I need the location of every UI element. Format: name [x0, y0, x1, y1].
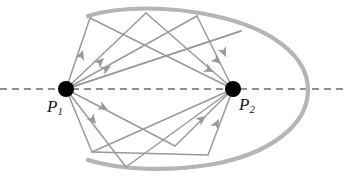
arrowhead-to-p2-3 — [218, 46, 230, 59]
ray-C-to-p2 — [197, 16, 233, 89]
ellipse-boundary-arc-lower — [88, 90, 308, 169]
focus-label-p1-subscript: 1 — [57, 105, 63, 117]
arrowhead-down-1 — [97, 101, 110, 114]
ray-G-to-p2 — [92, 89, 233, 152]
focus-label-p1-symbol: P — [47, 97, 57, 116]
ray-A-to-p2 — [90, 18, 233, 89]
focus-label-p2-subscript: 2 — [249, 103, 255, 115]
trajectory-rays-group — [66, 13, 241, 167]
ray-p1-to-F — [66, 89, 126, 167]
figure-canvas — [0, 0, 345, 181]
ray-p1-to-H — [66, 89, 175, 146]
ray-p1-to-G — [66, 89, 92, 152]
billiard-figure: P1 P2 — [0, 0, 345, 181]
focus-label-p1: P1 — [47, 98, 63, 115]
focus-point-p1 — [58, 81, 74, 97]
focus-label-p2-symbol: P — [239, 95, 249, 114]
ray-E-to-G — [92, 152, 208, 155]
ellipse-boundary-arc-upper — [88, 9, 308, 91]
focus-label-p2: P2 — [239, 96, 255, 113]
